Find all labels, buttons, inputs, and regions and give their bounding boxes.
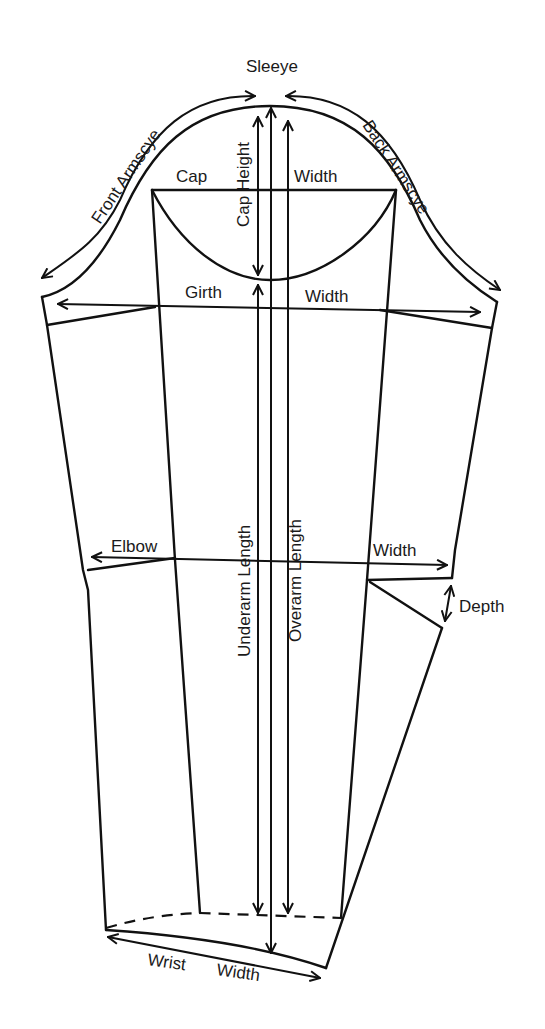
sleeve-pattern-diagram: Sleeye Front Armscye Back Armscye Cap Wi… <box>0 0 545 1029</box>
depth-top-line <box>367 578 452 580</box>
elbow-dart-line <box>88 558 175 570</box>
cap-label: Cap <box>176 167 207 186</box>
cap-bottom-curve <box>152 190 396 280</box>
left-outer-seam <box>42 297 106 930</box>
girth-label: Girth <box>185 283 222 302</box>
wrist-width-label: Width <box>215 960 261 985</box>
cap-width-label: Width <box>294 167 337 186</box>
diagram-title: Sleeye <box>246 57 298 76</box>
girth-width-label: Width <box>305 287 348 306</box>
girth-width-arrow <box>58 304 480 312</box>
right-lower-seam <box>326 628 442 968</box>
elbow-width-label: Width <box>373 541 416 560</box>
underarm-length-label: Underarm Length <box>235 525 254 657</box>
wrist-curve <box>106 930 326 968</box>
depth-diagonal <box>370 582 442 628</box>
front-armscye-arrow <box>42 96 255 278</box>
depth-arrow <box>445 586 451 621</box>
right-outer-seam <box>452 302 497 578</box>
back-armscye-arrow <box>286 96 500 290</box>
wrist-label: Wrist <box>146 950 187 974</box>
overarm-length-label: Overarm Length <box>286 519 305 642</box>
elbow-label: Elbow <box>111 537 158 556</box>
cap-height-label: Cap Height <box>234 142 253 227</box>
depth-label: Depth <box>459 597 504 616</box>
wrist-dashed-line <box>106 913 341 928</box>
left-girth-dart <box>47 307 155 325</box>
